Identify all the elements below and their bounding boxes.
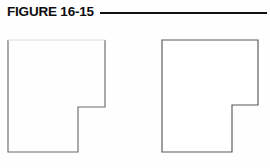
left-polygon-outline bbox=[8, 40, 105, 152]
right-polygon-outline bbox=[162, 40, 258, 152]
left-polygon-group bbox=[8, 40, 105, 152]
figure-drawing-area bbox=[0, 0, 270, 168]
right-polygon-group bbox=[162, 40, 258, 152]
figure-page: FIGURE 16-15 bbox=[0, 0, 270, 168]
figure-diagram-svg bbox=[0, 0, 270, 168]
